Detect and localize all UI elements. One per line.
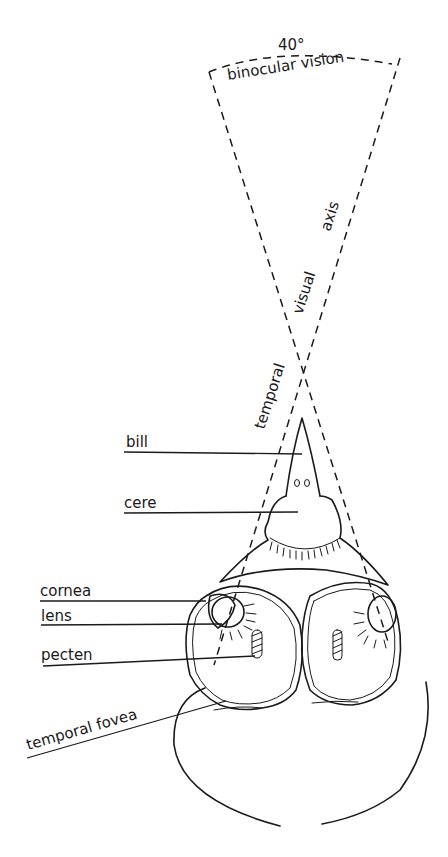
left-visual-axis-line (209, 72, 389, 645)
lens-label: lens (41, 607, 72, 625)
left-eye (186, 586, 302, 709)
right-eye (302, 583, 401, 706)
temporal-axis-label: temporal (251, 361, 289, 431)
bird-head-binocular-diagram: 40° binocular vision temporal visual axi… (0, 0, 448, 857)
cornea-label: cornea (40, 582, 91, 600)
temporal-fovea-label: temporal fovea (24, 705, 139, 754)
binocular-field (209, 56, 400, 665)
right-visual-axis-line (214, 58, 400, 665)
cere-label: cere (124, 494, 157, 512)
angle-label: 40° (278, 36, 305, 54)
cere-leader (124, 512, 298, 513)
bill-label: bill (126, 433, 148, 451)
pecten-label: pecten (41, 646, 93, 664)
leader-lines (27, 452, 302, 758)
skull-outline (174, 682, 428, 826)
axis-label: axis (317, 199, 343, 233)
right-pecten (333, 630, 342, 660)
left-lens (212, 597, 244, 627)
bill-shape (286, 418, 320, 496)
left-pecten (252, 630, 262, 658)
visual-axis-label: visual (289, 269, 320, 316)
cere-shape (220, 496, 388, 585)
bill-leader (124, 452, 302, 454)
right-lens (368, 596, 396, 632)
